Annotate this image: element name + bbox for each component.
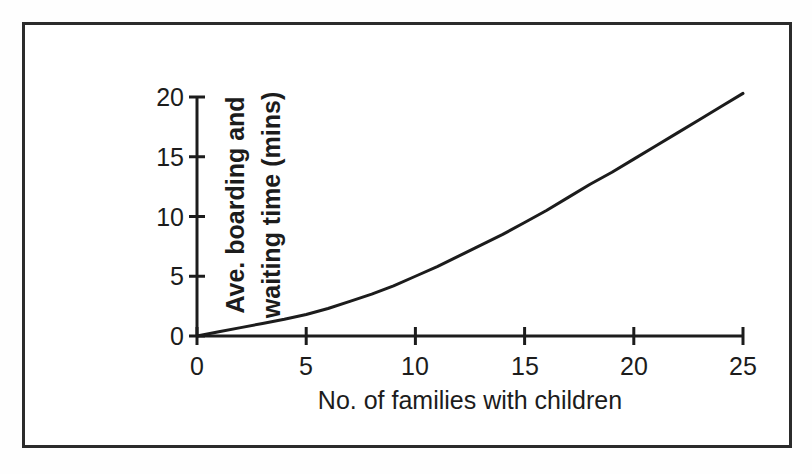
y-axis-title: Ave. boarding and waiting time (mins): [60, 60, 160, 350]
y-tick-label-0: 0: [150, 322, 184, 351]
y-tick-label-15: 15: [150, 143, 184, 172]
chart-figure: Ave. boarding and waiting time (mins) 20…: [0, 0, 812, 474]
x-tick-label-15: 15: [511, 352, 539, 381]
x-tick-label-10: 10: [401, 352, 429, 381]
x-tick-label-25: 25: [729, 352, 757, 381]
x-tick-label-5: 5: [299, 352, 313, 381]
y-tick-label-10: 10: [150, 203, 184, 232]
y-tick-label-5: 5: [150, 262, 184, 291]
x-axis-title: No. of families with children: [318, 386, 622, 415]
y-tick-label-20: 20: [150, 83, 184, 112]
x-tick-label-0: 0: [190, 352, 204, 381]
x-tick-label-20: 20: [620, 352, 648, 381]
